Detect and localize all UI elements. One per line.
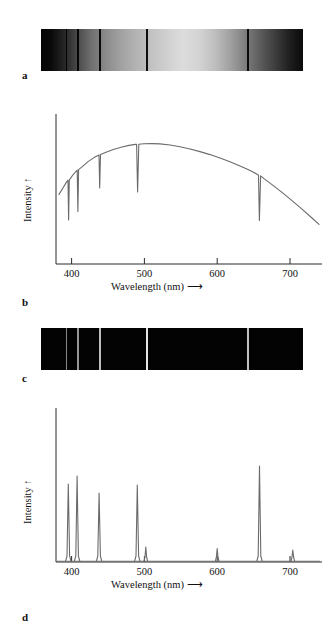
absorption-line-486 — [146, 29, 148, 71]
panel-a-spectrum-strip — [41, 29, 303, 71]
emission-background — [41, 328, 303, 370]
panel-b-xaxis-title: Wavelength (nm) ⟶ — [111, 280, 203, 292]
panel-b-ylabel-text: Intensity — [22, 185, 33, 222]
emission-line-656 — [247, 328, 249, 370]
emission-line-397 — [66, 328, 67, 370]
panel-d-peak-410 — [74, 476, 79, 561]
absorption-line-397 — [66, 29, 68, 71]
panel-d-ticklabel-500: 500 — [137, 566, 153, 577]
panel-d-yaxis-title: Intensity ↑ — [22, 479, 33, 524]
continuum-gradient — [41, 29, 303, 71]
panel-b-ticklabel-700: 700 — [282, 268, 298, 279]
panel-b-yaxis-title: Intensity ↑ — [22, 177, 33, 222]
panel-d-ticklabel-600: 600 — [209, 566, 225, 577]
panel-d-peak-706 — [291, 550, 295, 561]
panel-b-xlabel-text: Wavelength (nm) — [111, 281, 184, 292]
panel-c-emission-band — [41, 328, 303, 370]
panel-b-plot: 400 500 600 700 Wavelength (nm) ⟶ Intens… — [36, 112, 326, 282]
emission-line-486 — [146, 328, 148, 370]
panel-d-peak-656 — [257, 466, 262, 561]
panel-letter-c: c — [22, 373, 27, 384]
emission-line-410 — [77, 328, 79, 370]
panel-b-svg: 400 500 600 700 — [36, 112, 326, 282]
panel-letter-d: d — [22, 612, 28, 623]
panel-b-xlabel-arrow: ⟶ — [187, 281, 203, 292]
panel-b-absorption-curve — [59, 144, 319, 225]
panel-d-xlabel-text: Wavelength (nm) — [111, 579, 184, 590]
panel-d-peak-397 — [66, 484, 71, 561]
panel-d-xlabel-arrow: ⟶ — [187, 579, 203, 590]
panel-d-peak-434 — [96, 493, 101, 561]
panel-b-ylabel-arrow: ↑ — [22, 177, 33, 182]
panel-c-spectrum-strip — [41, 328, 303, 370]
emission-line-434 — [99, 328, 101, 370]
panel-letter-a: a — [22, 70, 28, 81]
panel-d-xaxis-title: Wavelength (nm) ⟶ — [111, 578, 203, 590]
panel-d-peak-486 — [135, 485, 140, 561]
absorption-line-434 — [99, 29, 101, 71]
panel-a-continuum — [41, 29, 303, 71]
panel-d-plot: 400 500 600 700 Wavelength (nm) ⟶ Intens… — [36, 404, 326, 589]
panel-d-ticklabel-400: 400 — [64, 566, 80, 577]
panel-d-ylabel-text: Intensity — [22, 487, 33, 524]
panel-b-ticklabel-400: 400 — [64, 268, 80, 279]
panel-d-ylabel-arrow: ↑ — [22, 479, 33, 484]
absorption-line-410 — [77, 29, 79, 71]
absorption-line-656 — [247, 29, 249, 71]
panel-b-ticklabel-500: 500 — [137, 268, 153, 279]
spectra-figure: a 400 500 600 700 Wavelength (nm) ⟶ Inte… — [0, 0, 336, 637]
panel-d-peak-501 — [144, 547, 148, 561]
panel-d-ticklabel-700: 700 — [282, 566, 298, 577]
panel-d-svg: 400 500 600 700 — [36, 404, 326, 589]
panel-b-ticklabel-600: 600 — [209, 268, 225, 279]
panel-letter-b: b — [22, 297, 28, 308]
